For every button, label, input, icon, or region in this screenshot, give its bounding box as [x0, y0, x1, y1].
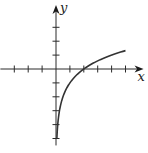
x-axis-label: x — [138, 69, 146, 84]
logarithmic-curve — [57, 51, 126, 139]
function-graph: x y — [0, 0, 148, 153]
y-axis-label: y — [59, 0, 68, 15]
